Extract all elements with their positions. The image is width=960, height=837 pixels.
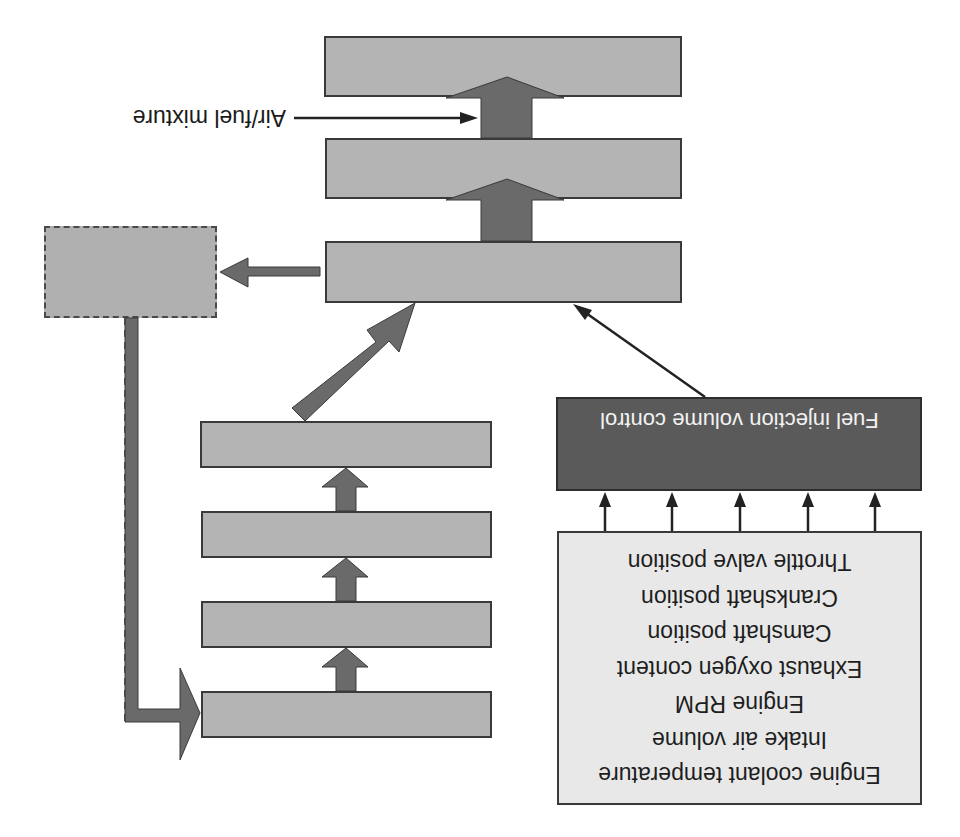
up-arrow-icon xyxy=(446,179,564,241)
controller-output-arrow xyxy=(586,313,705,397)
up-arrow-icon xyxy=(446,77,564,138)
arrows-layer xyxy=(0,0,960,837)
up-arrow-icon xyxy=(322,558,368,601)
feedback-arrow-icon xyxy=(125,318,200,760)
left-arrow-icon xyxy=(220,258,320,287)
up-arrow-icon xyxy=(322,648,368,691)
diagonal-arrow-icon xyxy=(292,303,415,421)
up-arrow-icon xyxy=(322,468,368,511)
